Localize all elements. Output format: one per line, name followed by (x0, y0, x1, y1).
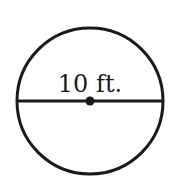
diameter-label: 10 ft. (58, 70, 122, 98)
circle-diagram: 10 ft. (0, 0, 171, 178)
